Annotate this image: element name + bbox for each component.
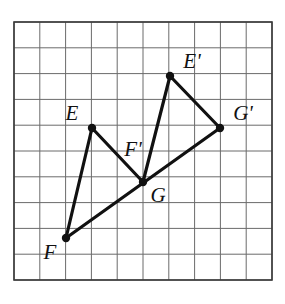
vertex-dot-E — [88, 124, 96, 132]
label-F-prime: F' — [123, 137, 142, 161]
label-G-prime: G' — [233, 101, 253, 125]
vertex-dot-G — [139, 178, 147, 186]
vertex-dot-E-prime — [166, 72, 174, 80]
label-E: E — [65, 101, 79, 125]
label-F: F — [43, 240, 57, 264]
vertex-dot-G-prime — [216, 124, 224, 132]
vertex-dot-F — [62, 234, 70, 242]
geometry-figure: EFGE'F'G' — [0, 0, 285, 304]
label-E-prime: E' — [182, 49, 201, 73]
diagram-canvas: EFGE'F'G' — [0, 0, 285, 304]
label-G: G — [150, 183, 165, 207]
